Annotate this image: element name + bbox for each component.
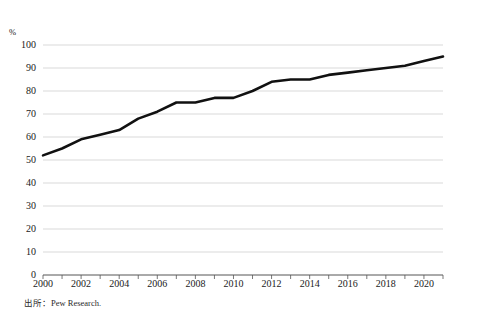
chart-figure: % 0102030405060708090100 200020022004200… (0, 0, 486, 325)
x-axis-tick-label: 2000 (33, 279, 53, 289)
y-axis-tick-labels: 0102030405060708090100 (0, 0, 43, 325)
line-chart-svg (43, 45, 443, 275)
x-axis-tick-label: 2006 (147, 279, 167, 289)
y-axis-tick-label: 70 (26, 109, 36, 119)
y-axis-tick-label: 60 (26, 132, 36, 142)
y-axis-tick-label: 10 (26, 247, 36, 257)
gridlines (43, 45, 443, 252)
y-axis-tick-label: 20 (26, 224, 36, 234)
source-note: 出所：Pew Research. (24, 299, 101, 308)
x-axis-tick-label: 2018 (376, 279, 396, 289)
y-axis-tick-label: 100 (21, 40, 36, 50)
y-axis-tick-label: 40 (26, 178, 36, 188)
x-axis-tick-label: 2010 (223, 279, 243, 289)
x-axis-tick-label: 2020 (414, 279, 434, 289)
y-axis-tick-label: 30 (26, 201, 36, 211)
x-axis-tick-label: 2016 (338, 279, 358, 289)
x-axis-tick-labels: 2000200220042006200820102012201420162018… (0, 279, 486, 295)
y-axis-tick-label: 50 (26, 155, 36, 165)
clipped-header-text (46, 0, 366, 5)
x-axis-tick-label: 2002 (71, 279, 91, 289)
x-axis-tick-label: 2004 (109, 279, 129, 289)
x-axis-tick-label: 2012 (262, 279, 282, 289)
y-axis-tick-label: 90 (26, 63, 36, 73)
x-axis-tick-label: 2014 (300, 279, 320, 289)
x-axis-tick-label: 2008 (185, 279, 205, 289)
y-axis-tick-label: 80 (26, 86, 36, 96)
data-line-series (43, 57, 443, 156)
plot-area (43, 45, 443, 275)
